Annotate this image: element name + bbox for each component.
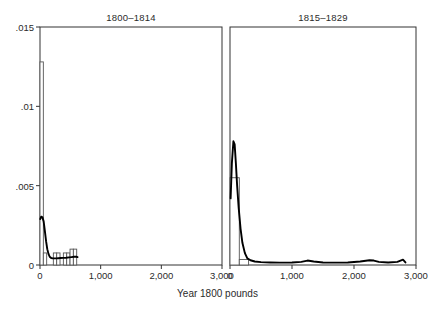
plot-area bbox=[0, 0, 435, 312]
panel-frame-1 bbox=[230, 27, 416, 265]
histogram-bar bbox=[40, 62, 43, 265]
x-tick-label: 1,000 bbox=[89, 270, 113, 281]
x-axis-title: Year 1800 pounds bbox=[0, 288, 435, 299]
x-tick-label: 0 bbox=[37, 270, 42, 281]
chart-figure: 1800–1814 1815–1829 0.005.01.015 Year 18… bbox=[0, 0, 435, 312]
histogram-bar bbox=[239, 259, 248, 265]
x-tick-label: 2,000 bbox=[149, 270, 173, 281]
x-tick-label: 1,000 bbox=[280, 270, 304, 281]
histogram-bar bbox=[67, 253, 70, 265]
x-tick-label: 3,000 bbox=[404, 270, 428, 281]
x-tick-label: 2,000 bbox=[342, 270, 366, 281]
kernel-density-curve-1 bbox=[231, 141, 406, 262]
x-tick-label: 0 bbox=[227, 270, 232, 281]
histogram-bar bbox=[63, 253, 66, 265]
histogram-bar bbox=[43, 253, 46, 265]
panel-frame-0 bbox=[40, 27, 222, 265]
